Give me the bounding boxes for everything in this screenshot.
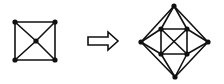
graph-edge: [36, 41, 55, 60]
graph-node: [205, 39, 210, 44]
graph-node: [158, 51, 163, 56]
graph-node: [172, 74, 177, 79]
graph-node: [184, 51, 189, 56]
graph-node: [12, 57, 17, 62]
graph-edge: [15, 22, 36, 41]
arrow-shape: [88, 32, 118, 50]
graph-node: [12, 19, 17, 24]
right-graph-octahedral: [138, 3, 210, 79]
graph-node: [52, 19, 57, 24]
graph-node: [158, 26, 163, 31]
graph-edge: [141, 42, 175, 77]
graph-node: [52, 57, 57, 62]
graph-transformation-diagram: [0, 0, 224, 84]
graph-node: [33, 38, 38, 43]
graph-edge: [15, 41, 36, 60]
graph-node: [171, 3, 176, 8]
left-graph-square-with-center: [12, 19, 57, 62]
graph-edge: [36, 22, 55, 41]
transformation-arrow-icon: [88, 32, 118, 50]
graph-node: [184, 26, 189, 31]
graph-node: [138, 39, 143, 44]
